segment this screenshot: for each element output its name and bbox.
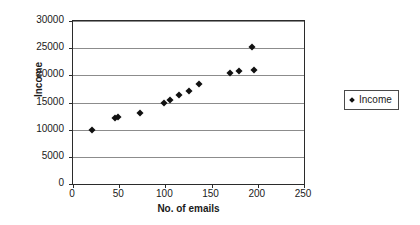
plot-area <box>72 20 305 185</box>
y-axis-tick-label: 30000 <box>36 15 64 25</box>
y-axis-tick-labels: 050001000015000200002500030000 <box>14 20 68 185</box>
y-axis-tick-mark <box>69 48 73 49</box>
chart-legend: Income <box>344 90 399 110</box>
data-point <box>249 44 256 51</box>
gridline-horizontal <box>73 157 304 158</box>
y-axis-tick-label: 15000 <box>36 97 64 107</box>
y-axis-tick-mark <box>69 75 73 76</box>
y-axis-tick-mark <box>69 103 73 104</box>
gridline-horizontal <box>73 103 304 104</box>
y-axis-tick-label: 10000 <box>36 124 64 134</box>
data-point <box>186 88 193 95</box>
x-axis-tick-label: 150 <box>202 188 219 199</box>
x-axis-tick-label: 50 <box>113 188 124 199</box>
gridline-horizontal <box>73 21 304 22</box>
x-axis-tick-label: 0 <box>69 188 75 199</box>
y-axis-tick-label: 25000 <box>36 42 64 52</box>
gridline-horizontal <box>73 75 304 76</box>
data-point <box>89 126 96 133</box>
data-point <box>195 80 202 87</box>
legend-item-label: Income <box>359 94 392 105</box>
y-axis-tick-mark <box>69 157 73 158</box>
y-axis-tick-mark <box>69 130 73 131</box>
legend-diamond-marker <box>349 97 355 103</box>
data-point <box>137 109 144 116</box>
x-axis-tick-labels: 050100150200250 <box>72 188 305 202</box>
y-axis-tick-label: 0 <box>58 178 64 188</box>
y-axis-tick-mark <box>69 21 73 22</box>
x-axis-title: No. of emails <box>72 203 305 214</box>
data-point <box>251 67 258 74</box>
gridline-horizontal <box>73 130 304 131</box>
y-axis-tick-label: 20000 <box>36 69 64 79</box>
x-axis-tick-label: 250 <box>295 188 312 199</box>
gridline-horizontal <box>73 48 304 49</box>
scatter-chart: Income 050001000015000200002500030000 05… <box>0 0 420 225</box>
x-axis-tick-label: 100 <box>156 188 173 199</box>
y-axis-tick-label: 5000 <box>42 151 64 161</box>
data-point <box>236 67 243 74</box>
x-axis-tick-label: 200 <box>248 188 265 199</box>
data-point <box>176 92 183 99</box>
